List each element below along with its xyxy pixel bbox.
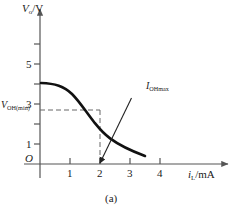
origin-label: O	[25, 152, 33, 164]
iohmax-label: IOHmax	[146, 80, 169, 92]
output-characteristic-figure	[0, 0, 243, 215]
x-tick-label-4: 4	[157, 167, 163, 179]
curve-output-voltage	[41, 83, 145, 156]
vohmin-label: VOH(min)	[1, 99, 30, 111]
x-tick-label-2: 2	[97, 167, 103, 179]
x-tick-label-1: 1	[67, 167, 73, 179]
x-tick-marks	[70, 158, 160, 164]
x-axis-title: iL/mA	[188, 168, 215, 181]
y-tick-label-5: 5	[26, 58, 32, 70]
y-axis-title: Vo/V	[22, 2, 43, 15]
line-iohmax	[100, 98, 132, 163]
x-tick-label-3: 3	[127, 167, 133, 179]
y-tick-marks	[34, 44, 40, 144]
y-tick-label-1: 1	[26, 138, 32, 150]
figure-caption: (a)	[105, 192, 117, 204]
